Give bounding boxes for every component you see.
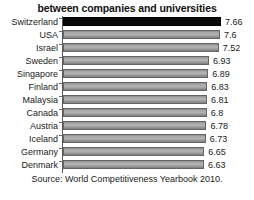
category-label: Canada <box>0 107 58 119</box>
bar-row: Iceland6.73 <box>0 133 254 146</box>
bar <box>63 69 208 78</box>
bar-track <box>63 56 238 65</box>
category-label: Sweden <box>0 55 58 67</box>
chart-figure: between companies and universities Switz… <box>0 0 254 200</box>
category-label: Finland <box>0 81 58 93</box>
bar-row: Sweden6.93 <box>0 55 254 68</box>
value-label: 7.6 <box>224 29 237 41</box>
value-label: 6.8 <box>211 107 224 119</box>
value-label: 6.73 <box>210 133 228 145</box>
value-label: 6.89 <box>212 68 230 80</box>
bar <box>63 43 219 52</box>
value-label: 6.78 <box>210 120 228 132</box>
bar-row: Denmark6.63 <box>0 159 254 172</box>
category-label: Malaysia <box>0 94 58 106</box>
value-label: 6.83 <box>211 81 229 93</box>
bar-row: Switzerland7.66 <box>0 16 254 29</box>
value-label: 7.66 <box>225 16 243 28</box>
bar-row: Singapore6.89 <box>0 68 254 81</box>
bar <box>63 95 207 104</box>
bar-rows: Switzerland7.66USA7.6Israel7.52Sweden6.9… <box>0 16 254 172</box>
category-label: Singapore <box>0 68 58 80</box>
category-label: Denmark <box>0 159 58 171</box>
bar <box>63 82 207 91</box>
category-label: Israel <box>0 42 58 54</box>
category-label: Switzerland <box>0 16 58 28</box>
bar <box>63 108 207 117</box>
chart-title: between companies and universities <box>0 2 254 14</box>
bar-row: Israel7.52 <box>0 42 254 55</box>
category-label: USA <box>0 29 58 41</box>
category-label: Iceland <box>0 133 58 145</box>
bar <box>63 30 220 39</box>
bar-row: Finland6.83 <box>0 81 254 94</box>
bar <box>63 56 209 65</box>
bar <box>63 134 206 143</box>
bar <box>63 160 204 169</box>
value-label: 6.65 <box>208 146 226 158</box>
bar-track <box>63 17 238 26</box>
plot-area: Switzerland7.66USA7.6Israel7.52Sweden6.9… <box>0 16 254 174</box>
bar-row: Malaysia6.81 <box>0 94 254 107</box>
bar <box>63 121 206 130</box>
bar-row: Germany6.65 <box>0 146 254 159</box>
bar-row: Canada6.8 <box>0 107 254 120</box>
bar-highlighted <box>63 17 221 26</box>
category-label: Austria <box>0 120 58 132</box>
bar-track <box>63 43 238 52</box>
bar-row: Austria6.78 <box>0 120 254 133</box>
value-label: 6.93 <box>213 55 231 67</box>
bar-track <box>63 30 238 39</box>
value-label: 6.81 <box>211 94 229 106</box>
source-note: Source: World Competitiveness Yearbook 2… <box>0 174 254 185</box>
bar <box>63 147 204 156</box>
value-label: 6.63 <box>208 159 226 171</box>
value-label: 7.52 <box>223 42 241 54</box>
category-label: Germany <box>0 146 58 158</box>
bar-row: USA7.6 <box>0 29 254 42</box>
